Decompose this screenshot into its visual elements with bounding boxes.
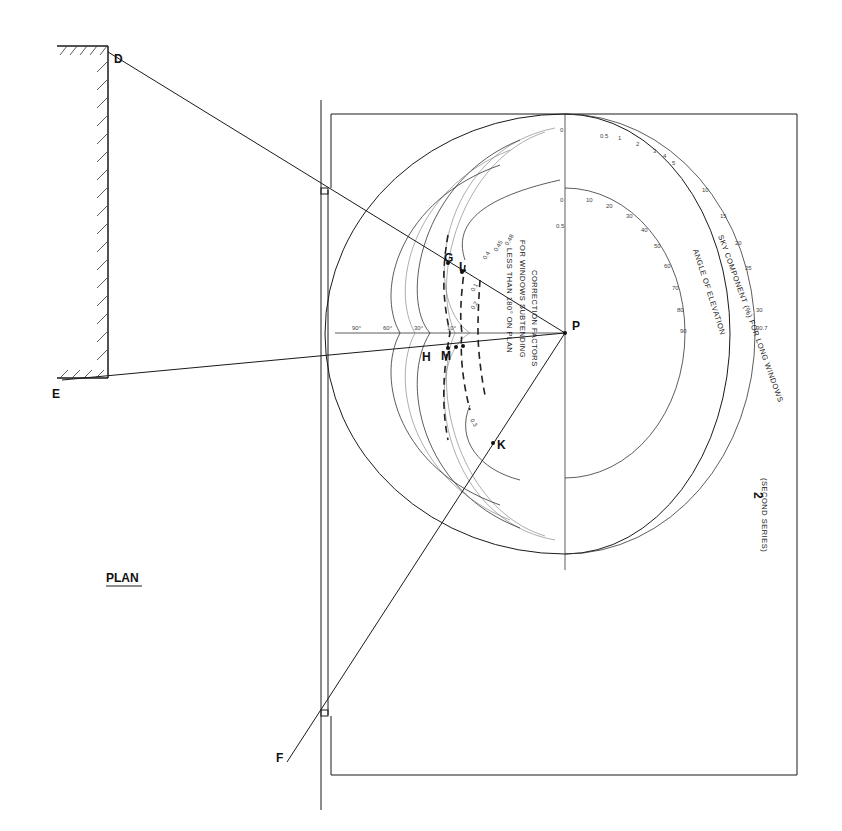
elevation-ticks: 10 20 30 40 50 60 70 80 90 (586, 197, 687, 334)
svg-text:0.1: 0.1 (470, 282, 480, 293)
svg-text:80: 80 (677, 307, 684, 313)
plan-label: PLAN (106, 571, 139, 585)
svg-text:25: 25 (745, 265, 752, 271)
svg-text:0: 0 (560, 197, 564, 203)
svg-text:1: 1 (618, 135, 622, 141)
svg-text:2: 2 (636, 141, 640, 147)
svg-text:60: 60 (664, 263, 671, 269)
svg-text:15: 15 (720, 213, 727, 219)
correction-caption-1: CORRECTION FACTORS (530, 270, 539, 367)
point-label-p: P (572, 319, 580, 333)
svg-text:30°: 30° (414, 325, 424, 331)
svg-text:0.3: 0.3 (469, 418, 479, 429)
svg-text:90°: 90° (352, 325, 362, 331)
point-label-g: G (444, 251, 453, 265)
obstruction-wall (57, 46, 108, 378)
svg-text:0.5: 0.5 (600, 133, 609, 139)
point-label-h: H (422, 350, 431, 364)
axis-ticks: 0 0 0.5 (556, 127, 565, 229)
svg-text:90: 90 (680, 328, 687, 334)
protractor-series: (SECOND SERIES) (760, 478, 769, 552)
svg-text:0.45: 0.45 (493, 239, 504, 253)
svg-text:0.4: 0.4 (482, 250, 492, 261)
point-label-l: L (459, 260, 466, 274)
point-label-m: M (441, 349, 451, 363)
svg-text:30: 30 (756, 307, 763, 313)
point-label-f: F (276, 751, 283, 765)
sight-lines (62, 52, 565, 762)
svg-text:10°: 10° (447, 325, 457, 331)
point-label-e: E (52, 387, 60, 401)
svg-text:0: 0 (560, 127, 564, 133)
point-label-d: D (114, 52, 123, 66)
svg-text:10: 10 (702, 187, 709, 193)
svg-text:50: 50 (654, 243, 661, 249)
svg-text:20: 20 (735, 240, 742, 246)
point-label-k: K (497, 438, 506, 452)
svg-text:10: 10 (586, 197, 593, 203)
svg-text:0.5: 0.5 (556, 223, 565, 229)
elevation-caption: ANGLE OF ELEVATION (691, 248, 727, 336)
svg-text:4: 4 (663, 153, 667, 159)
svg-text:20: 20 (606, 203, 613, 209)
correction-caption-3: LESS THAN 180° ON PLAN (505, 248, 514, 353)
angle-ticks: 90° 60° 30° 10° (352, 325, 457, 331)
svg-text:5: 5 (672, 160, 676, 166)
svg-text:30: 30 (626, 213, 633, 219)
daylight-protractor-diagram: D E F G L H M K P PLAN CORRECTION FACTOR… (0, 0, 842, 831)
svg-text:30.7: 30.7 (756, 325, 768, 331)
protractor-scales (325, 114, 755, 570)
svg-text:60°: 60° (383, 325, 393, 331)
svg-text:0.48: 0.48 (504, 233, 515, 247)
correction-caption-2: FOR WINDOWS SUBTENDING (518, 240, 527, 358)
svg-text:70: 70 (672, 285, 679, 291)
protractor-frame (331, 114, 797, 775)
svg-text:40: 40 (641, 227, 648, 233)
